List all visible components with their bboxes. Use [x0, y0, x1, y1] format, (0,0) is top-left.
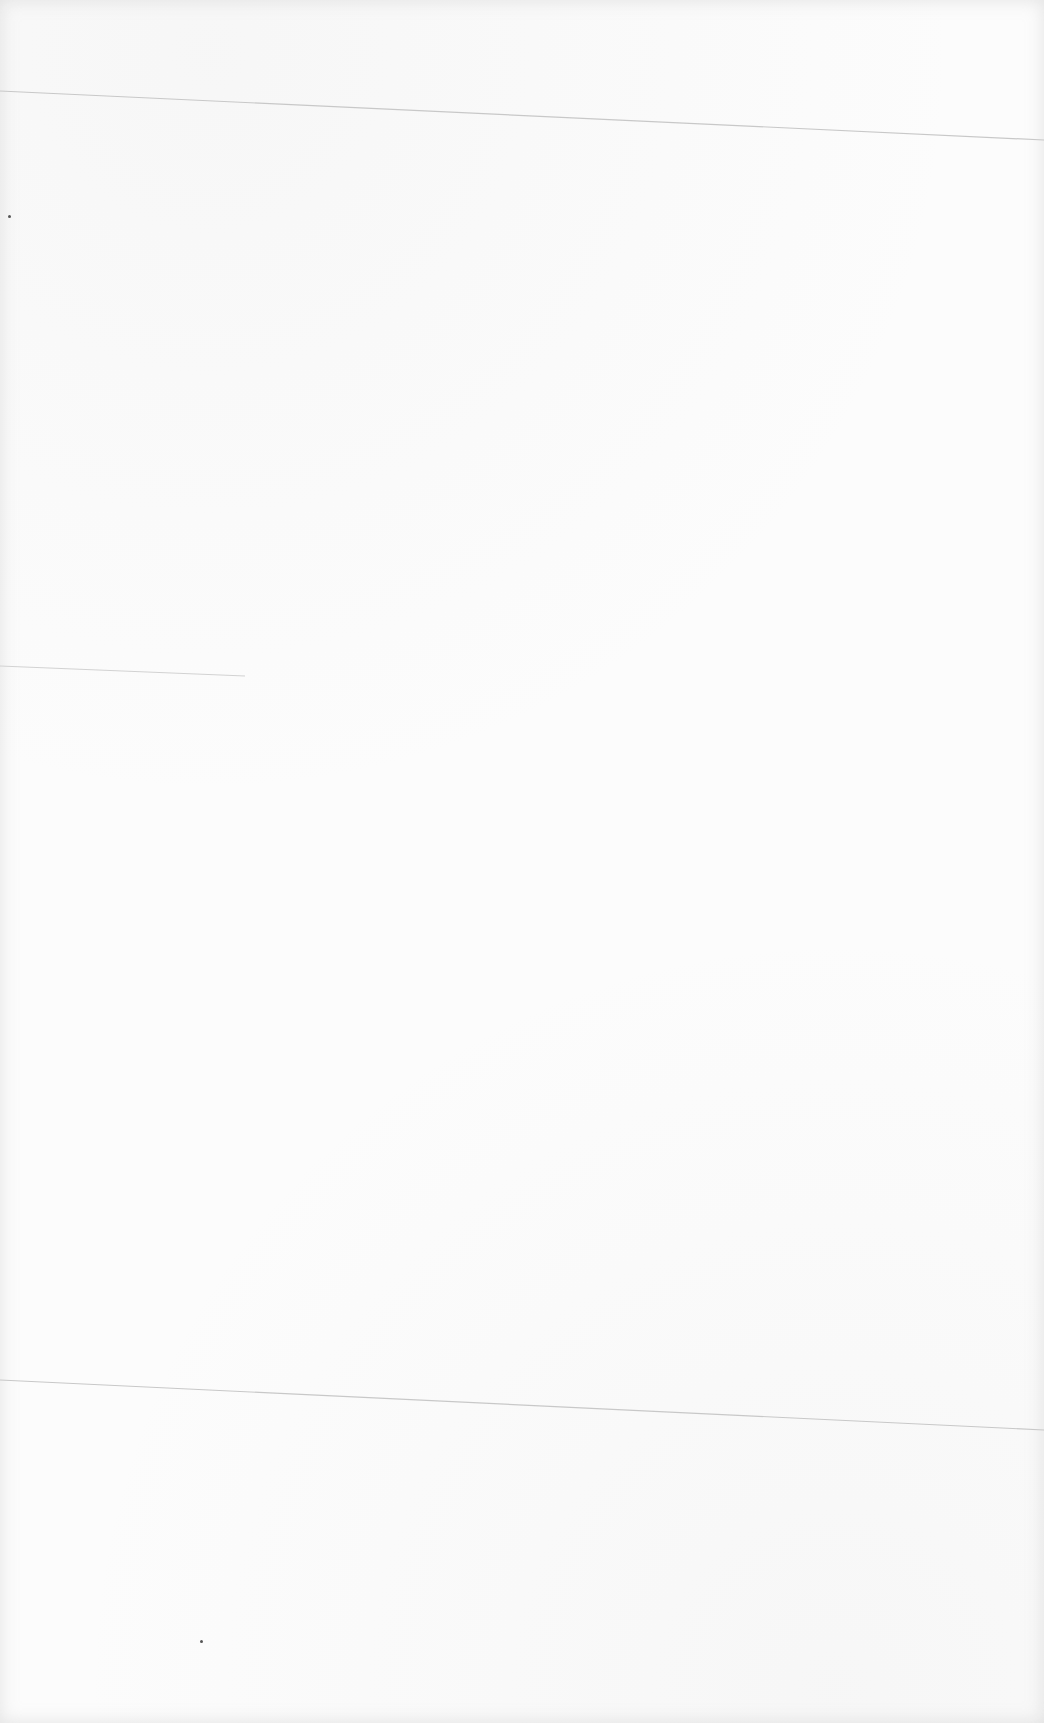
- rule-line-bottom: [0, 1380, 1044, 1430]
- rule-line-top: [0, 91, 1044, 140]
- scan-speck: [200, 1640, 203, 1643]
- ruled-lines: [0, 0, 1044, 1723]
- scan-speck: [8, 215, 11, 218]
- blank-document-page: [0, 0, 1044, 1723]
- rule-line-middle-short: [0, 666, 245, 676]
